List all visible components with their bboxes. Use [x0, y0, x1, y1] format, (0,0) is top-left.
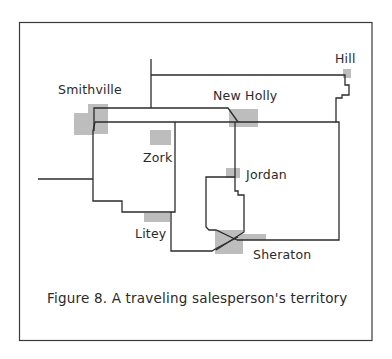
town-marker-sheraton-strip — [243, 234, 266, 240]
town-marker-new-holly — [229, 109, 258, 127]
town-label-smithville: Smithville — [58, 82, 122, 97]
town-label-sheraton: Sheraton — [253, 247, 311, 262]
town-label-litey: Litey — [135, 226, 166, 241]
town-marker-hill — [343, 69, 351, 78]
figure-caption: Figure 8. A traveling salesperson's terr… — [47, 290, 348, 306]
town-marker-litey — [144, 213, 170, 222]
town-label-new-holly: New Holly — [213, 88, 277, 103]
town-label-hill: Hill — [335, 51, 356, 66]
town-marker-zork — [150, 130, 171, 145]
road-smithville-newholly-upper — [94, 108, 238, 131]
town-label-jordan: Jordan — [246, 167, 287, 182]
town-marker-smithville-b — [74, 113, 94, 135]
town-label-zork: Zork — [143, 150, 172, 165]
